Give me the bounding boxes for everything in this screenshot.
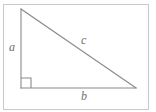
triangle-canvas (0, 0, 156, 112)
label-hypotenuse-c: c (81, 34, 86, 46)
right-angle-marker-icon (21, 78, 31, 88)
label-leg-a: a (9, 41, 15, 53)
figure-border-frame (4, 5, 149, 110)
triangle-hypotenuse-c (21, 9, 136, 88)
right-triangle-figure: a c b (0, 0, 156, 112)
label-leg-b: b (81, 90, 87, 102)
